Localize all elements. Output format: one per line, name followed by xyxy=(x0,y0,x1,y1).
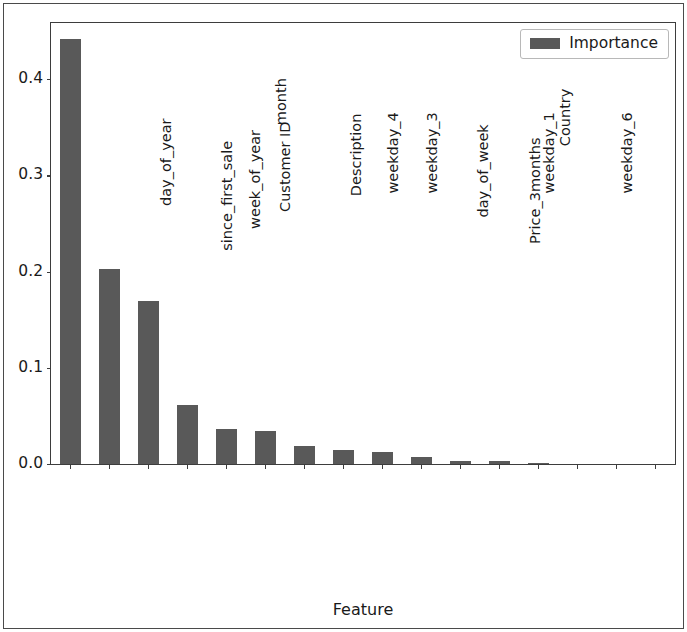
bar xyxy=(255,431,275,464)
chart-legend: Importance xyxy=(520,29,669,59)
x-tick-mark xyxy=(265,464,266,469)
x-tick-mark xyxy=(70,464,71,469)
y-tick-mark xyxy=(47,79,52,80)
y-tick-mark xyxy=(47,272,52,273)
x-tick-mark xyxy=(187,464,188,469)
x-tick-mark xyxy=(382,464,383,469)
x-tick-mark xyxy=(109,464,110,469)
x-tick-label: weekday_3 xyxy=(425,112,440,193)
bar xyxy=(216,429,236,464)
x-tick-label: Customer ID xyxy=(278,121,293,211)
plot-area xyxy=(51,23,675,464)
x-tick-label: weekday_4 xyxy=(386,112,401,193)
x-tick-mark xyxy=(343,464,344,469)
legend-label-importance: Importance xyxy=(569,36,658,52)
y-tick-label: 0.4 xyxy=(18,71,43,87)
x-tick-label: month xyxy=(274,78,289,125)
bar xyxy=(138,301,158,464)
bar xyxy=(294,446,314,464)
x-tick-mark xyxy=(148,464,149,469)
x-tick-label: weekday_1 xyxy=(542,112,557,193)
x-tick-label: day_of_week xyxy=(476,124,491,217)
y-tick-label: 0.2 xyxy=(18,264,43,280)
y-tick-mark xyxy=(47,464,52,465)
x-tick-mark xyxy=(499,464,500,469)
y-tick-mark xyxy=(47,175,52,176)
bar xyxy=(372,452,392,465)
y-tick-label: 0.0 xyxy=(18,456,43,472)
bar xyxy=(411,457,431,464)
x-tick-mark xyxy=(421,464,422,469)
x-axis-title: Feature xyxy=(50,600,676,619)
bar xyxy=(99,269,119,464)
bar xyxy=(333,450,353,464)
x-tick-mark xyxy=(538,464,539,469)
y-tick-mark xyxy=(47,368,52,369)
plot-axes: Importance 0.00.10.20.30.4day_of_yearsin… xyxy=(50,22,676,465)
x-tick-mark xyxy=(304,464,305,469)
x-tick-mark xyxy=(577,464,578,469)
x-tick-label: Description xyxy=(348,114,363,197)
y-tick-label: 0.3 xyxy=(18,168,43,184)
x-tick-mark xyxy=(655,464,656,469)
x-tick-label: since_first_sale xyxy=(219,141,234,251)
bar xyxy=(60,39,80,464)
x-tick-label: week_of_year xyxy=(247,130,262,229)
chart-page: Importance 0.00.10.20.30.4day_of_yearsin… xyxy=(0,0,687,632)
x-tick-label: weekday_6 xyxy=(620,112,635,193)
x-tick-mark xyxy=(616,464,617,469)
bar xyxy=(177,405,197,464)
x-tick-label: day_of_year xyxy=(158,119,173,207)
legend-swatch-importance xyxy=(530,38,560,49)
x-tick-mark xyxy=(460,464,461,469)
x-tick-mark xyxy=(226,464,227,469)
y-tick-label: 0.1 xyxy=(18,360,43,376)
x-tick-label: Country xyxy=(557,89,572,147)
